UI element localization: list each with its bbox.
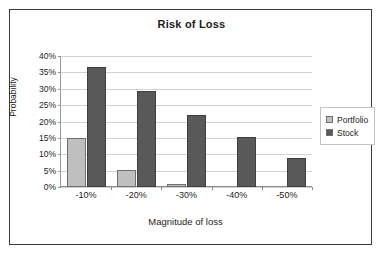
legend-item: Stock — [326, 126, 368, 139]
y-tick-label: 20% — [39, 117, 56, 127]
bar-portfolio — [67, 138, 86, 187]
y-tick-label: 40% — [39, 51, 56, 61]
legend-label: Stock — [337, 128, 358, 138]
x-tick-label: -30% — [161, 190, 211, 200]
y-tick-label: 30% — [39, 84, 56, 94]
y-axis-title: Probability — [8, 57, 18, 137]
bar-portfolio — [167, 184, 186, 187]
x-tick-label: -20% — [111, 190, 161, 200]
y-tick-label: 25% — [39, 100, 56, 110]
bar-stock — [137, 91, 156, 187]
gridline — [61, 187, 312, 188]
bar-group: -30% — [161, 56, 211, 187]
bar-stock — [237, 137, 256, 187]
y-tick-label: 35% — [39, 67, 56, 77]
legend-label: Portfolio — [337, 115, 368, 125]
legend-swatch-icon — [326, 129, 333, 136]
bar-group: -50% — [262, 56, 312, 187]
y-tick-label: 15% — [39, 133, 56, 143]
bar-portfolio — [117, 170, 136, 187]
legend-item: Portfolio — [326, 113, 368, 126]
y-tick-label: 0% — [44, 182, 56, 192]
x-tick-label: -40% — [212, 190, 262, 200]
chart-figure: Risk of Loss Probability Magnitude of lo… — [0, 0, 383, 257]
bar-stock — [287, 158, 306, 187]
x-tick-label: -50% — [262, 190, 312, 200]
chart-title: Risk of Loss — [0, 18, 383, 30]
x-tick-label: -10% — [61, 190, 111, 200]
y-tick-label: 5% — [44, 166, 56, 176]
legend-swatch-icon — [326, 116, 333, 123]
y-tick-label: 10% — [39, 149, 56, 159]
bar-group: -40% — [212, 56, 262, 187]
plot-area: 0%5%10%15%20%25%30%35%40% -10%-20%-30%-4… — [61, 56, 312, 187]
bar-stock — [187, 115, 206, 187]
bar-group: -20% — [111, 56, 161, 187]
y-tick-mark — [58, 187, 61, 188]
x-tick-mark — [312, 187, 313, 190]
bar-group: -10% — [61, 56, 111, 187]
x-axis-title: Magnitude of loss — [58, 216, 313, 227]
bar-stock — [87, 67, 106, 187]
chart-legend: PortfolioStock — [320, 107, 375, 145]
